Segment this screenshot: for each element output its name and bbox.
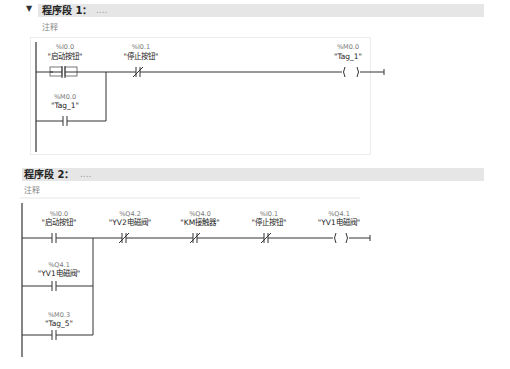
coil-tag1[interactable]	[344, 67, 359, 77]
contact-tag1-no[interactable]	[63, 116, 67, 126]
contact-tag5-no[interactable]	[52, 330, 56, 340]
ladder-diagram	[0, 0, 510, 369]
contact-yv1-no[interactable]	[52, 281, 56, 291]
contact-start-button-selected[interactable]	[50, 66, 77, 78]
contact-start-button-no[interactable]	[52, 233, 56, 243]
coil-yv1[interactable]	[335, 233, 348, 243]
